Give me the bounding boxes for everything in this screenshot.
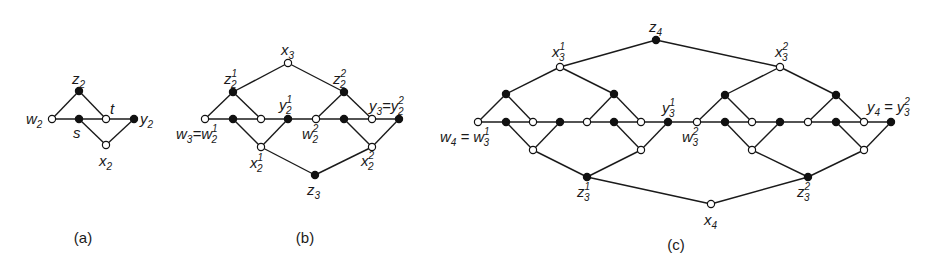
- label-w4-eq-w31: w4=w13: [440, 126, 490, 148]
- node-y2: [130, 115, 137, 122]
- label-z4: z4: [648, 18, 663, 38]
- node-x4: [707, 200, 714, 207]
- node: [229, 115, 236, 122]
- label-z31: z13: [576, 181, 590, 203]
- node: [721, 118, 728, 125]
- node: [832, 91, 839, 98]
- label-x32: x23: [774, 41, 789, 63]
- node: [340, 115, 347, 122]
- label-y21: y12: [278, 94, 292, 116]
- node-y21: [284, 115, 291, 122]
- label-x31: x13: [551, 41, 565, 63]
- label-y2: y2: [139, 110, 154, 130]
- node: [776, 118, 783, 125]
- node: [583, 118, 590, 125]
- node-z32: [804, 173, 811, 180]
- node: [721, 91, 728, 98]
- node-x2: [102, 141, 109, 148]
- node: [832, 118, 839, 125]
- label-y3-eq-y22: y3=y22: [368, 95, 404, 117]
- node-y4: [887, 118, 894, 125]
- label-w2: w2: [26, 110, 43, 130]
- label-s: s: [73, 124, 81, 141]
- node: [368, 115, 375, 122]
- node-w22: [312, 115, 319, 122]
- node: [610, 90, 617, 97]
- node-t: [102, 115, 109, 122]
- node: [529, 118, 536, 125]
- label-y31: y13: [661, 97, 675, 119]
- panel-b: x3 z12 z22 y12 w22 w3=w12 y3=y22 x12 x22…: [176, 41, 404, 246]
- node: [860, 146, 867, 153]
- node-x21: [257, 143, 264, 150]
- node: [748, 118, 755, 125]
- node-w3: [201, 115, 208, 122]
- label-x3: x3: [280, 41, 295, 61]
- recursive-graph-figure: z2 w2 s t y2 x2 (a): [0, 0, 945, 274]
- node-x31: [556, 63, 563, 70]
- label-z32: z23: [796, 181, 811, 203]
- panel-c-edges: [478, 40, 891, 204]
- caption-b: (b): [296, 229, 314, 246]
- label-x4: x4: [703, 211, 718, 231]
- label-w22: w22: [302, 123, 319, 145]
- label-y4-eq-y32: y4=y23: [866, 96, 910, 118]
- node: [610, 118, 617, 125]
- node: [529, 146, 536, 153]
- node: [637, 118, 644, 125]
- node: [637, 146, 644, 153]
- label-z22: z22: [332, 68, 347, 90]
- label-x2: x2: [98, 152, 113, 172]
- caption-c: (c): [667, 236, 685, 253]
- node-w32: [693, 118, 700, 125]
- node: [502, 90, 509, 97]
- node-w4: [474, 118, 481, 125]
- caption-a: (a): [74, 229, 92, 246]
- label-x21: x12: [249, 152, 263, 174]
- node-s: [75, 115, 82, 122]
- label-w3-eq-w21: w3=w12: [176, 123, 218, 145]
- node-x32: [776, 63, 783, 70]
- node: [556, 118, 563, 125]
- node-z3: [311, 171, 318, 178]
- node-z31: [583, 173, 590, 180]
- label-t: t: [110, 100, 115, 117]
- node: [257, 115, 264, 122]
- panel-c: z4 x13 x23 y13 w23 w4=w13 y4=y23 z13 z23…: [440, 18, 910, 253]
- panel-a-edges: [52, 91, 134, 145]
- label-z21: z12: [223, 68, 237, 90]
- node: [804, 118, 811, 125]
- node-w2: [48, 115, 55, 122]
- node: [502, 118, 509, 125]
- panel-a: z2 w2 s t y2 x2 (a): [26, 70, 154, 246]
- node-y31: [664, 118, 671, 125]
- node: [748, 146, 755, 153]
- label-z3: z3: [306, 181, 321, 201]
- label-x22: x22: [360, 150, 375, 172]
- node: [860, 118, 867, 125]
- label-w32: w23: [682, 126, 699, 148]
